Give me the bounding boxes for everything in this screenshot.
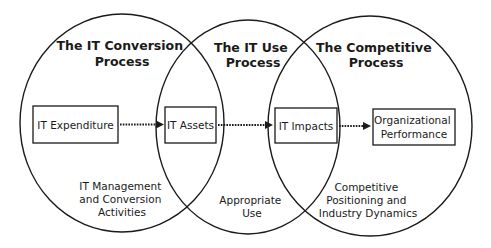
svg-text:IT Assets: IT Assets [167, 119, 214, 131]
it-conversion-process-title: The IT Conversion Process [57, 38, 188, 69]
organizational-performance-box: Organizational Performance [373, 109, 455, 145]
svg-text:IT Expenditure: IT Expenditure [37, 119, 113, 131]
competitive-caption: Competitive Positioning and Industry Dyn… [319, 181, 417, 219]
arrow-impacts-to-performance [339, 122, 371, 130]
arrow-expenditure-to-assets [120, 121, 164, 129]
it-use-caption: Appropriate Use [219, 194, 284, 219]
svg-text:IT Impacts: IT Impacts [279, 120, 334, 132]
competitive-process-title: The Competitive Process [316, 40, 436, 70]
it-value-process-diagram: The IT Conversion Process The IT Use Pro… [0, 0, 491, 248]
arrowhead-icon [265, 121, 273, 129]
arrowhead-icon [156, 121, 164, 129]
arrow-assets-to-impacts [218, 121, 273, 129]
it-conversion-caption: IT Management and Conversion Activities [79, 180, 164, 218]
it-impacts-box: IT Impacts [275, 108, 337, 143]
it-assets-box: IT Assets [165, 107, 216, 143]
arrowhead-icon [363, 122, 371, 130]
it-use-process-title: The IT Use Process [214, 40, 292, 70]
it-expenditure-box: IT Expenditure [33, 106, 118, 143]
